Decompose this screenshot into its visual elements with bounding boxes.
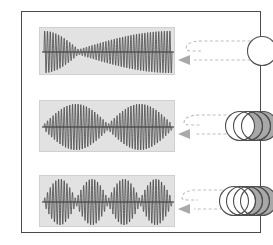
- circle-group-row-3: [218, 178, 273, 224]
- figure-frame: [21, 11, 261, 233]
- waveform-plot-3: [40, 176, 175, 227]
- figure-row-3: [22, 12, 260, 232]
- waveform-panel-3: [39, 175, 175, 227]
- waveform-interference-figure: [0, 0, 273, 245]
- waveform-trace-3: [44, 179, 172, 225]
- connector-arrowhead-3: [178, 204, 190, 214]
